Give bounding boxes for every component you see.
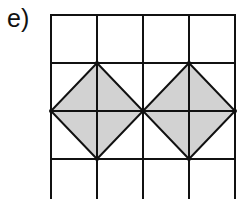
vertex-dot — [49, 109, 53, 113]
vertex-dot — [233, 109, 237, 113]
vertex-dot — [141, 109, 145, 113]
vertex-dot — [95, 157, 99, 161]
vertex-dot — [187, 61, 191, 65]
grid-diagram — [0, 0, 242, 199]
vertex-dot — [187, 157, 191, 161]
vertex-dot — [95, 61, 99, 65]
